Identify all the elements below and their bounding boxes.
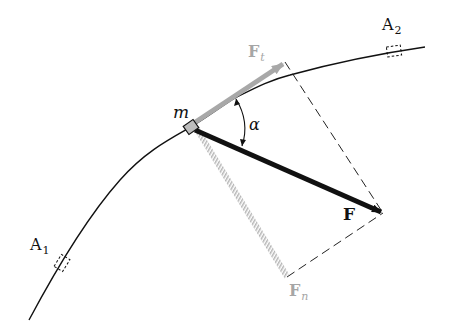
diagram-canvas: m F Ft Fn α A1 A2	[0, 0, 449, 327]
angle-arrowhead-bottom	[240, 139, 246, 146]
point-a2-label: A2	[382, 17, 402, 33]
normal-force-label: Fn	[289, 283, 308, 299]
tangential-force-arrow	[194, 64, 283, 123]
dashed-line-fn-to-f	[287, 213, 383, 277]
point-a1-label: A1	[30, 237, 50, 253]
mass-label: m	[173, 104, 189, 121]
force-label: F	[343, 206, 355, 223]
angle-label: α	[249, 117, 260, 133]
force-diagram	[0, 0, 449, 327]
tangential-force-label: Ft	[248, 44, 265, 60]
angle-arc	[236, 99, 245, 146]
